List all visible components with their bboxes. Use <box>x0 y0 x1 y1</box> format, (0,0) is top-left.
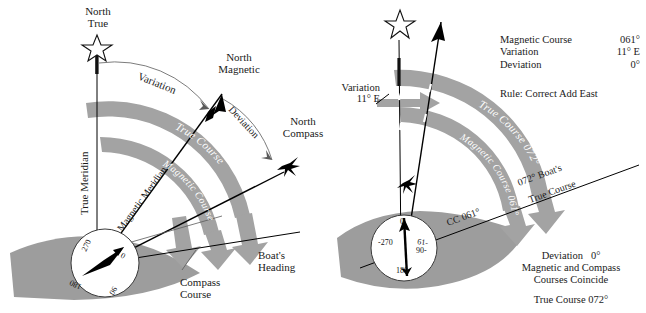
variation-arc-arrowhead <box>199 100 209 110</box>
magnetic-course-arrowhead-right <box>431 22 445 42</box>
true-meridian-label: True Meridian <box>78 151 90 215</box>
table-row: Magnetic Course 061° <box>500 34 640 46</box>
compass-course-label: Compass Course <box>180 277 260 300</box>
row-label: Deviation <box>500 59 541 71</box>
figure-canvas: 270 0 90 180 True Course Magnetic Course <box>0 0 646 313</box>
deviation-note-3: Courses Coincide <box>496 274 646 285</box>
variation-callout-right: Variation 11° E <box>318 82 380 104</box>
course-data-table: Magnetic Course 061° Variation 11° E Dev… <box>500 34 640 71</box>
svg-text:180: 180 <box>396 266 408 275</box>
rule-note: Rule: Correct Add East <box>500 88 646 99</box>
true-course-note: True Course 072° <box>496 294 646 305</box>
true-course-band-label-left: True Course <box>174 120 227 166</box>
magnetic-course-band-arrow-left <box>201 230 236 270</box>
true-meridian-tick-right <box>397 58 400 86</box>
row-value: 0° <box>631 59 640 71</box>
north-true-label: North True <box>60 6 136 29</box>
row-label: Magnetic Course <box>500 34 572 46</box>
svg-text:0: 0 <box>400 217 404 226</box>
variation-arc-label: Variation <box>136 70 178 96</box>
deviation-note-1: Deviation 0° <box>496 250 646 261</box>
row-value: 061° <box>620 34 640 46</box>
svg-text:-270: -270 <box>378 238 393 247</box>
deviation-arc-label: Deviation <box>227 104 262 140</box>
row-label: Variation <box>500 46 539 58</box>
table-row: Deviation 0° <box>500 59 640 71</box>
magnetic-meridian-label: Magnetic Meridian <box>115 164 169 233</box>
north-compass-label: North Compass <box>262 116 344 139</box>
boats-heading-label: Boat's Heading <box>258 250 328 273</box>
magnetic-course-band-label-left: Magnetic Course <box>161 157 217 222</box>
north-true-star-right <box>385 10 415 38</box>
row-value: 11° E <box>617 46 640 58</box>
table-row: Variation 11° E <box>500 46 640 58</box>
deviation-note-2: Magnetic and Compass <box>496 262 646 273</box>
svg-text:90-: 90- <box>416 246 427 255</box>
north-magnetic-label: North Magnetic <box>196 52 282 75</box>
